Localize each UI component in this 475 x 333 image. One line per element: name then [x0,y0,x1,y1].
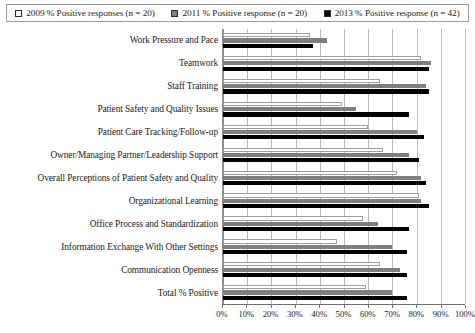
category-label: Office Process and Standardization [0,219,218,229]
legend-item-2009: 2009 % Positive responses (n = 20) [15,8,155,18]
bar-y2009 [223,148,383,152]
plot-area [222,29,465,304]
table-row [223,29,465,52]
bar-y2013 [223,44,313,48]
chart-legend: 2009 % Positive responses (n = 20) 2011 … [6,4,469,22]
legend-item-2011: 2011 % Positive response (n = 20) [171,8,307,18]
table-row [223,121,465,144]
bar-y2009 [223,262,380,266]
category-label: Teamwork [0,58,218,68]
x-axis-tick-label: 40% [311,309,327,319]
bar-chart: 2009 % Positive responses (n = 20) 2011 … [0,0,475,333]
bar-y2009 [223,56,421,60]
x-axis-tick [344,305,345,308]
table-row [223,75,465,98]
x-axis-tick [392,305,393,308]
table-row [223,98,465,121]
category-label: Patient Safety and Quality Issues [0,104,218,114]
category-label: Information Exchange With Other Settings [0,242,218,252]
table-row [223,189,465,212]
bar-y2011 [223,61,431,65]
bar-y2013 [223,296,407,300]
bar-y2013 [223,135,424,139]
x-axis-tick-label: 90% [433,309,449,319]
x-axis-tick [246,305,247,308]
table-row [223,212,465,235]
bar-y2011 [223,290,392,294]
bar-y2013 [223,181,426,185]
bar-y2009 [223,239,337,243]
legend-swatch-white-icon [15,10,22,17]
bar-y2013 [223,250,407,254]
table-row [223,235,465,258]
bar-y2011 [223,176,421,180]
x-axis-tick-label: 20% [263,309,279,319]
bar-y2013 [223,112,409,116]
bar-y2013 [223,273,407,277]
x-axis-tick [441,305,442,308]
bar-y2009 [223,193,419,197]
category-label: Organizational Learning [0,196,218,206]
bar-y2011 [223,199,421,203]
category-label: Staff Training [0,81,218,91]
legend-label-2011: 2011 % Positive response (n = 20) [182,8,307,18]
table-row [223,52,465,75]
x-axis-tick-label: 70% [384,309,400,319]
x-axis-tick-label: 50% [336,309,352,319]
legend-swatch-black-icon [324,10,331,17]
x-axis-tick [222,305,223,308]
category-label: Patient Care Tracking/Follow-up [0,127,218,137]
x-axis-tick [295,305,296,308]
bar-y2011 [223,84,426,88]
bar-y2011 [223,38,327,42]
bar-y2009 [223,125,368,129]
bar-y2009 [223,216,363,220]
bar-y2013 [223,89,429,93]
bar-y2013 [223,227,409,231]
bar-y2011 [223,222,378,226]
category-label: Overall Perceptions of Patient Safety an… [0,173,218,183]
x-axis-tick-label: 0% [216,309,227,319]
bar-y2009 [223,102,342,106]
category-label: Communication Openness [0,265,218,275]
bar-groups [223,29,465,304]
bar-y2013 [223,67,429,71]
legend-item-2013: 2013 % Positive response (n = 42) [324,8,460,18]
table-row [223,258,465,281]
bar-y2011 [223,245,392,249]
table-row [223,281,465,304]
bar-y2009 [223,79,380,83]
bar-y2011 [223,268,400,272]
x-axis-tick [319,305,320,308]
x-axis-tick-label: 80% [409,309,425,319]
x-axis-tick [465,305,466,308]
x-axis-tick [368,305,369,308]
bar-y2013 [223,158,419,162]
bar-y2011 [223,107,356,111]
x-axis-tick-label: 60% [360,309,376,319]
category-axis-labels: Work Pressure and PaceTeamworkStaff Trai… [0,29,218,304]
table-row [223,167,465,190]
legend-label-2013: 2013 % Positive response (n = 42) [335,8,460,18]
bar-y2009 [223,285,366,289]
category-label: Owner/Managing Partner/Leadership Suppor… [0,150,218,160]
bar-y2011 [223,153,409,157]
x-axis-tick-label: 30% [287,309,303,319]
table-row [223,144,465,167]
category-label: Work Pressure and Pace [0,35,218,45]
x-axis-tick-label: 10% [238,309,254,319]
x-axis-tick [271,305,272,308]
bar-y2011 [223,130,417,134]
gridline [465,29,466,304]
category-label: Total % Positive [0,288,218,298]
x-axis-tick-labels: 0%10%20%30%40%50%60%70%80%90%100% [200,309,475,323]
x-axis-tick-label: 100% [455,309,475,319]
bar-y2009 [223,33,310,37]
x-axis-tick [416,305,417,308]
legend-label-2009: 2009 % Positive responses (n = 20) [26,8,155,18]
bar-y2009 [223,171,397,175]
legend-swatch-gray-icon [171,10,178,17]
bar-y2013 [223,204,429,208]
